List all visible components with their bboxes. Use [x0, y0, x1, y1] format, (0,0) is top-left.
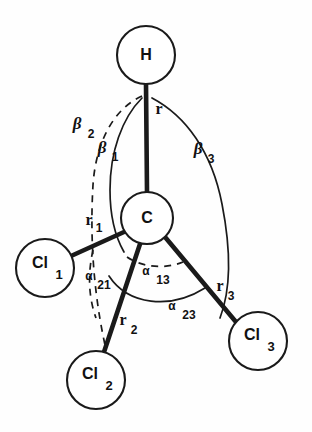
angle-sublabel-alpha13: 13: [156, 273, 170, 287]
angle-sublabel-beta1: 1: [112, 150, 119, 164]
bond-sublabel-r1: 1: [96, 221, 103, 235]
angle-label-alpha23: α: [168, 299, 176, 313]
bond-label-r: r: [155, 100, 162, 117]
bond-c-h: [146, 84, 147, 192]
angle-label-alpha13: α: [142, 264, 150, 278]
angle-sublabel-beta3: 3: [208, 152, 215, 166]
bond-sublabel-r3: 3: [228, 289, 235, 303]
angle-label-alpha21: α: [85, 269, 93, 283]
atom-label-c: C: [141, 209, 153, 226]
bond-label-r3: r: [216, 277, 223, 294]
angle-label-beta2: β: [72, 114, 82, 133]
angle-sublabel-beta2: 2: [88, 127, 95, 141]
atom-sublabel-cl1: 1: [55, 267, 62, 282]
atom-label-cl2: Cl: [82, 365, 98, 382]
atom-label-h: H: [140, 46, 152, 63]
bond-c-cl1: [71, 232, 124, 256]
angle-arc-alpha21: [90, 250, 96, 318]
atom-sublabel-cl3: 3: [267, 339, 274, 354]
atom-label-cl1: Cl: [32, 254, 48, 271]
angle-label-beta1: β: [97, 138, 107, 157]
angle-sublabel-alpha23: 23: [182, 308, 196, 322]
bond-label-r1: r: [85, 211, 92, 228]
atom-sublabel-cl2: 2: [105, 378, 112, 393]
molecular-diagram-figure: H C Cl 1 Cl 2 Cl 3 r r 1 r 2 r 3 β 2 β 1…: [0, 0, 312, 432]
bond-sublabel-r2: 2: [131, 323, 138, 337]
bond-label-r2: r: [119, 311, 126, 328]
angle-label-beta3: β: [193, 139, 203, 158]
angle-sublabel-alpha21: 21: [97, 278, 111, 292]
atom-label-cl3: Cl: [244, 326, 260, 343]
molecule-canvas: H C Cl 1 Cl 2 Cl 3 r r 1 r 2 r 3 β 2 β 1…: [0, 0, 312, 432]
